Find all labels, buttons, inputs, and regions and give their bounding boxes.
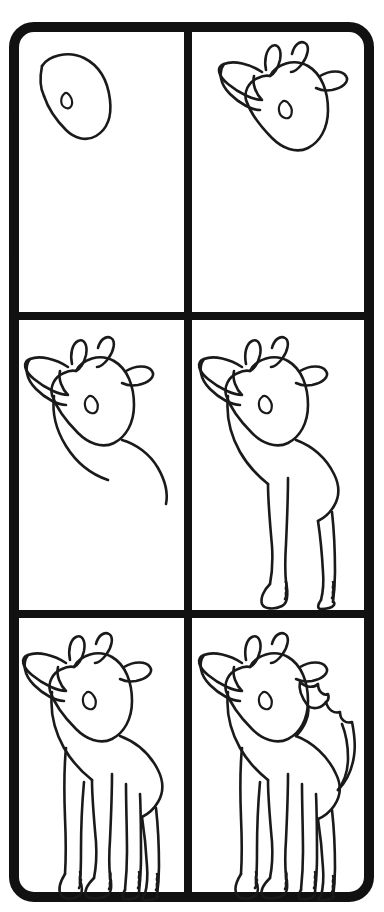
hoof-far-front xyxy=(318,896,334,900)
hoof-near-front xyxy=(261,876,287,899)
eye xyxy=(259,692,272,709)
eye xyxy=(259,396,272,413)
horn-right xyxy=(291,42,308,72)
left-ear xyxy=(23,653,66,701)
horn-right xyxy=(271,633,288,663)
hind-leg-far xyxy=(299,784,317,899)
head-outline xyxy=(226,653,309,741)
neck-and-body xyxy=(52,692,163,817)
hoof-near-hind xyxy=(236,874,258,899)
hoof-near xyxy=(261,582,287,608)
panel-1-figure xyxy=(22,38,182,158)
left-ear xyxy=(25,357,68,405)
head-outline xyxy=(226,357,309,445)
panel-3-figure xyxy=(22,334,192,504)
left-ear xyxy=(199,653,242,701)
hoof-far-hind xyxy=(123,890,139,899)
front-leg-near xyxy=(261,774,288,899)
panel-6-figure xyxy=(198,632,374,900)
front-leg-far xyxy=(318,512,335,609)
left-ear xyxy=(219,62,262,110)
horn-right xyxy=(97,337,114,367)
horn-right xyxy=(95,633,112,663)
panel-5-figure xyxy=(22,632,194,900)
drawing-tutorial-sheet xyxy=(0,0,384,912)
hoof-far-hind xyxy=(299,890,315,899)
hoof-near-front xyxy=(85,876,111,899)
head-outline xyxy=(41,54,111,139)
neck-and-body xyxy=(228,692,340,819)
eye xyxy=(83,692,96,709)
head-outline xyxy=(52,357,135,445)
zigzag-mane xyxy=(296,682,355,790)
hoof-far xyxy=(318,600,334,609)
eye xyxy=(279,101,292,118)
front-leg-near xyxy=(85,774,112,899)
front-leg-far xyxy=(318,810,335,900)
neck-and-body xyxy=(228,396,339,521)
horn-right xyxy=(271,337,288,367)
eye xyxy=(85,396,98,413)
eye xyxy=(61,93,72,108)
front-leg-near xyxy=(261,478,288,608)
hoof-far-front xyxy=(142,894,158,900)
hind-leg-far xyxy=(123,784,141,899)
panel-2-figure xyxy=(202,36,372,166)
neck-back-line xyxy=(122,440,167,504)
head-outline xyxy=(50,653,133,741)
left-ear xyxy=(199,357,242,405)
front-leg-far xyxy=(142,808,159,900)
neck-front-line xyxy=(54,396,109,480)
head-outline xyxy=(246,62,329,150)
panel-4-figure xyxy=(198,334,370,609)
hoof-near-hind xyxy=(60,874,82,899)
